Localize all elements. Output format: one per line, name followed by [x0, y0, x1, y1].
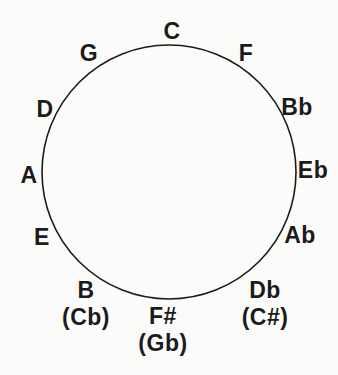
note-label-Bflat: Bb [281, 94, 313, 121]
note-name: F# [138, 303, 187, 330]
note-name: C [163, 18, 180, 45]
note-enharmonic: (C#) [242, 304, 289, 331]
note-label-E: E [34, 224, 50, 251]
note-label-B: B(Cb) [62, 277, 110, 331]
note-name: G [80, 40, 98, 67]
note-label-A: A [20, 162, 37, 189]
note-name: A [20, 162, 37, 189]
note-label-D: D [36, 96, 53, 123]
note-label-Dflat: Db(C#) [242, 277, 289, 331]
note-name: Bb [281, 94, 313, 121]
circle-of-fifths-diagram: CFBbEbAbDb(C#)F#(Gb)B(Cb)EADG [0, 0, 338, 375]
note-label-C: C [163, 18, 180, 45]
note-name: B [62, 277, 110, 304]
circle-icon [42, 45, 296, 299]
note-enharmonic: (Cb) [62, 304, 110, 331]
note-name: E [34, 224, 50, 251]
note-label-G: G [80, 40, 98, 67]
note-enharmonic: (Gb) [138, 330, 187, 357]
note-name: Eb [298, 157, 328, 184]
note-name: Ab [284, 222, 316, 249]
note-name: D [36, 96, 53, 123]
note-label-Aflat: Ab [284, 222, 316, 249]
note-label-Fsharp: F#(Gb) [138, 303, 187, 357]
note-label-Eflat: Eb [298, 157, 328, 184]
note-name: F [239, 40, 254, 67]
note-name: Db [242, 277, 289, 304]
note-label-F: F [239, 40, 254, 67]
